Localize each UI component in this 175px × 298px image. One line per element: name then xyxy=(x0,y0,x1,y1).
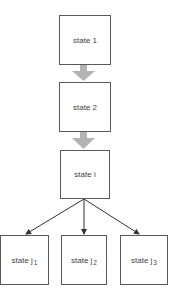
node-state-j3: state j 3 xyxy=(120,235,168,285)
node-state-1: state 1 xyxy=(59,15,111,65)
node-subscript: 2 xyxy=(93,259,97,266)
node-subscript: 3 xyxy=(153,259,157,266)
node-label: state j xyxy=(12,256,33,265)
node-state-j1: state j 1 xyxy=(0,235,49,285)
thick-arrow-s2-si xyxy=(72,132,95,149)
node-state-i: state i xyxy=(60,150,110,199)
node-subscript: 1 xyxy=(34,259,38,266)
node-state-j2: state j 2 xyxy=(61,235,107,285)
arrow-si-j1 xyxy=(26,199,84,234)
node-label: state i xyxy=(74,170,95,179)
thick-arrow-s1-s2 xyxy=(72,65,95,81)
arrow-si-j3 xyxy=(84,199,139,234)
node-label: state 2 xyxy=(73,103,97,112)
node-label: state 1 xyxy=(73,36,97,45)
node-state-2: state 2 xyxy=(59,82,111,132)
node-label: state j xyxy=(71,256,92,265)
node-label: state j xyxy=(131,256,152,265)
